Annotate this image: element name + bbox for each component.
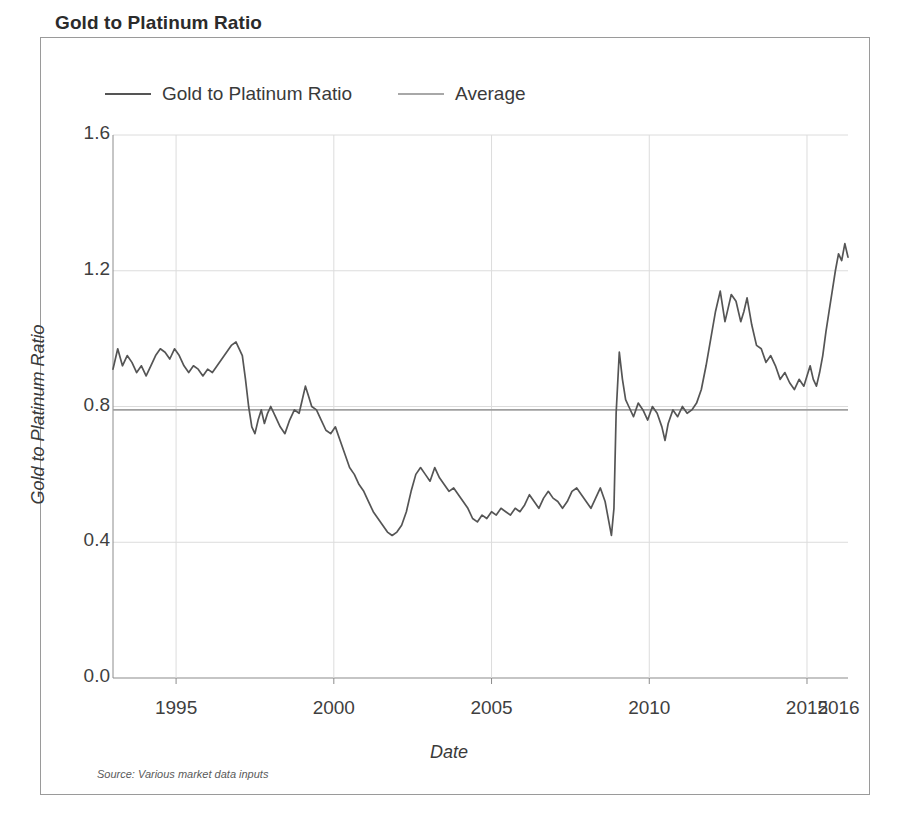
y-tick-label: 0.4	[58, 529, 110, 551]
x-axis-title: Date	[430, 742, 468, 763]
x-tick-label: 1995	[155, 697, 197, 719]
legend-item-average[interactable]: Average	[398, 83, 525, 105]
y-tick-label: 0.8	[58, 394, 110, 416]
y-tick-label: 0.0	[58, 665, 110, 687]
x-tick-label: 2010	[628, 697, 670, 719]
y-axis-title: Gold to Platinum Ratio	[28, 315, 49, 515]
chart-legend: Gold to Platinum Ratio Average	[105, 83, 526, 105]
x-tick-label: 2016	[817, 697, 859, 719]
x-axis-ticks: 199520002005201020152016	[0, 697, 901, 723]
source-note: Source: Various market data inputs	[97, 768, 268, 780]
chart-page: Gold to Platinum Ratio Gold to Platinum …	[0, 0, 901, 835]
y-tick-label: 1.6	[58, 122, 110, 144]
legend-label-average: Average	[455, 83, 525, 105]
chart-frame	[40, 37, 870, 795]
x-tick-label: 2000	[313, 697, 355, 719]
legend-label-series: Gold to Platinum Ratio	[162, 83, 352, 105]
legend-swatch-average	[398, 93, 444, 95]
y-tick-label: 1.2	[58, 258, 110, 280]
legend-swatch-series	[105, 93, 151, 95]
legend-item-series[interactable]: Gold to Platinum Ratio	[105, 83, 352, 105]
x-tick-label: 2005	[470, 697, 512, 719]
